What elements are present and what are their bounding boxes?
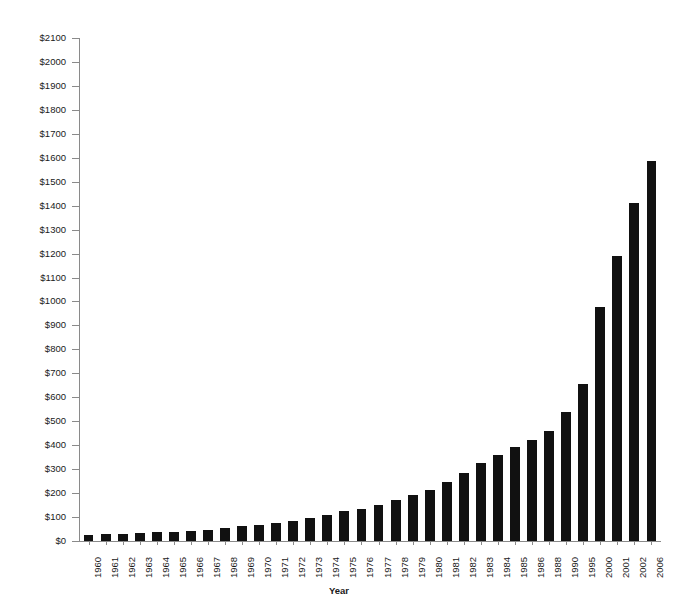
bar bbox=[152, 532, 162, 541]
x-axis-tick-label: 1964 bbox=[161, 557, 171, 578]
y-axis-tick-label-text: $2100 bbox=[4, 33, 66, 43]
y-axis-tick-label-text: $0 bbox=[4, 536, 66, 546]
y-axis-tick bbox=[72, 110, 80, 111]
y-axis-tick-label-text: $1900 bbox=[4, 81, 66, 91]
x-axis-line bbox=[79, 541, 661, 542]
x-axis-tick-label: 1972 bbox=[297, 557, 307, 578]
y-axis-tick bbox=[72, 278, 80, 279]
x-axis-tick-label: 2002 bbox=[638, 557, 648, 578]
y-axis-tick-label-text: $1400 bbox=[4, 201, 66, 211]
x-axis-tick bbox=[549, 541, 550, 545]
y-axis-tick-label-text: $300 bbox=[4, 464, 66, 474]
y-axis-tick-label-text: $1600 bbox=[4, 153, 66, 163]
y-axis-tick bbox=[72, 541, 80, 542]
bar bbox=[339, 511, 349, 541]
bar bbox=[271, 523, 281, 541]
x-axis-tick bbox=[361, 541, 362, 545]
x-axis-tick-label: 1988 bbox=[553, 557, 563, 578]
y-axis-tick bbox=[72, 397, 80, 398]
y-axis-tick-label: $2000 bbox=[0, 57, 66, 68]
x-axis-tick-label: 1968 bbox=[229, 557, 239, 578]
x-axis-tick-label: 1982 bbox=[468, 557, 478, 578]
y-axis-tick bbox=[72, 493, 80, 494]
bar bbox=[595, 307, 605, 541]
x-axis-tick bbox=[447, 541, 448, 545]
bar bbox=[254, 525, 264, 541]
y-axis-tick-label: $1700 bbox=[0, 129, 66, 140]
y-axis-tick-label-text: $700 bbox=[4, 368, 66, 378]
x-axis-tick bbox=[242, 541, 243, 545]
y-axis-tick-label-text: $1300 bbox=[4, 225, 66, 235]
y-axis-tick-label: $100 bbox=[0, 512, 66, 523]
bar bbox=[118, 534, 128, 541]
bar bbox=[288, 521, 298, 541]
y-axis-tick bbox=[72, 517, 80, 518]
bar bbox=[578, 384, 588, 541]
bar bbox=[647, 161, 657, 541]
y-axis-tick-label-text: $400 bbox=[4, 440, 66, 450]
x-axis-tick-label: 1973 bbox=[314, 557, 324, 578]
bar bbox=[322, 515, 332, 541]
x-axis-tick-label: 1990 bbox=[570, 557, 580, 578]
y-axis-tick-label: $200 bbox=[0, 488, 66, 499]
y-axis-tick-label: $1300 bbox=[0, 225, 66, 236]
x-axis-tick bbox=[634, 541, 635, 545]
bar bbox=[629, 203, 639, 541]
y-axis-tick bbox=[72, 325, 80, 326]
x-axis-tick-label: 1985 bbox=[519, 557, 529, 578]
x-axis-tick bbox=[344, 541, 345, 545]
y-axis-tick bbox=[72, 86, 80, 87]
x-axis-tick-label: 2000 bbox=[604, 557, 614, 578]
bar bbox=[442, 482, 452, 541]
x-axis-tick bbox=[430, 541, 431, 545]
x-axis-tick bbox=[259, 541, 260, 545]
y-axis-tick-label-text: $200 bbox=[4, 488, 66, 498]
y-axis-tick-label-text: $2000 bbox=[4, 57, 66, 67]
bar bbox=[612, 256, 622, 542]
y-axis-tick bbox=[72, 158, 80, 159]
y-axis-tick-label-text: $100 bbox=[4, 512, 66, 522]
y-axis-tick-label-text: $600 bbox=[4, 392, 66, 402]
x-axis-tick bbox=[481, 541, 482, 545]
y-axis-tick-label-text: $1000 bbox=[4, 296, 66, 306]
x-axis-tick bbox=[464, 541, 465, 545]
y-axis-tick-label: $1400 bbox=[0, 201, 66, 212]
y-axis-tick bbox=[72, 373, 80, 374]
bar bbox=[459, 473, 469, 541]
x-axis-tick bbox=[89, 541, 90, 545]
x-axis-tick-label: 1976 bbox=[365, 557, 375, 578]
x-axis-tick bbox=[396, 541, 397, 545]
bar bbox=[544, 431, 554, 541]
y-axis-tick-label-text: $1200 bbox=[4, 249, 66, 259]
x-axis-tick-label: 1975 bbox=[348, 557, 358, 578]
x-axis-tick bbox=[225, 541, 226, 545]
y-axis-tick bbox=[72, 182, 80, 183]
x-axis-tick-label: 1965 bbox=[178, 557, 188, 578]
y-axis-tick-label: $700 bbox=[0, 368, 66, 379]
x-axis-tick bbox=[379, 541, 380, 545]
bar bbox=[101, 534, 111, 541]
x-axis-tick bbox=[123, 541, 124, 545]
bar bbox=[237, 526, 247, 541]
bar bbox=[425, 490, 435, 541]
y-axis-tick-label: $300 bbox=[0, 464, 66, 475]
x-axis-tick-label: 1961 bbox=[110, 557, 120, 578]
x-axis-tick-label: 1984 bbox=[502, 557, 512, 578]
x-axis-tick bbox=[515, 541, 516, 545]
bar bbox=[203, 530, 213, 541]
x-axis-tick bbox=[208, 541, 209, 545]
x-axis-tick bbox=[651, 541, 652, 545]
x-axis-tick bbox=[617, 541, 618, 545]
y-axis-tick-label-text: $800 bbox=[4, 344, 66, 354]
x-axis-tick-label: 1960 bbox=[93, 557, 103, 578]
y-axis-tick-label-text: $1500 bbox=[4, 177, 66, 187]
y-axis-tick-label: $1600 bbox=[0, 153, 66, 164]
x-axis-tick-label: 1962 bbox=[127, 557, 137, 578]
x-axis-tick bbox=[191, 541, 192, 545]
x-axis-tick-label: 2001 bbox=[621, 557, 631, 578]
x-axis-tick-label: 1980 bbox=[434, 557, 444, 578]
y-axis-tick-label: $1200 bbox=[0, 249, 66, 260]
y-axis-tick bbox=[72, 445, 80, 446]
y-axis-tick-group: $0$100$200$300$400$500$600$700$800$900$1… bbox=[0, 0, 80, 615]
y-axis-tick bbox=[72, 254, 80, 255]
